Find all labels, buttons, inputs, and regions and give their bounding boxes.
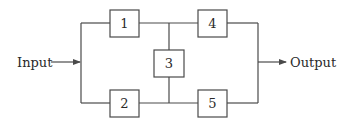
input-label: Input [17, 55, 53, 70]
block-4-label: 4 [208, 16, 216, 31]
block-1-label: 1 [120, 16, 128, 31]
block-3-label: 3 [165, 56, 173, 71]
block-diagram: 1 2 3 4 5 Input Output [0, 0, 348, 125]
block-2-label: 2 [120, 96, 128, 111]
output-label: Output [290, 55, 337, 70]
block-5-label: 5 [208, 96, 216, 111]
